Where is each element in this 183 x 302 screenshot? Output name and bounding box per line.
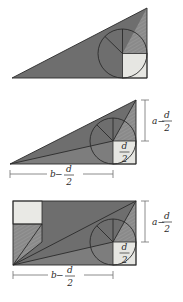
upper-left-square	[13, 201, 42, 224]
dim-bottom-denominator: 2	[65, 177, 72, 187]
dim-bottom-minus: −	[55, 169, 63, 179]
figure-top	[0, 0, 183, 92]
dimension-bottom: b − d 2	[13, 265, 113, 288]
square-denominator: 2	[121, 154, 128, 164]
square-denominator: 2	[121, 255, 128, 265]
dim-right-denominator: 2	[163, 123, 170, 133]
dimension-right: a − d 2	[141, 100, 172, 141]
dim-bottom-minus: −	[56, 270, 64, 280]
figure-middle-canvas: a − d 2 d 2 b − d 2	[0, 92, 183, 187]
dim-bottom-numerator: d	[67, 265, 73, 275]
figure-bottom: a − d 2 d 2 b − d 2	[0, 187, 183, 302]
square-numerator: d	[122, 141, 128, 151]
dim-right-numerator: d	[164, 211, 170, 221]
figure-top-canvas	[0, 0, 183, 92]
dim-right-numerator: d	[164, 110, 170, 120]
figure-bottom-canvas: a − d 2 d 2 b − d 2	[0, 187, 183, 302]
figure-middle: a − d 2 d 2 b − d 2	[0, 92, 183, 187]
dimension-right: a − d 2	[141, 201, 172, 242]
dim-right-denominator: 2	[163, 224, 170, 234]
figure-stack: a − d 2 d 2 b − d 2	[0, 0, 183, 302]
dimension-bottom: b − d 2	[10, 164, 113, 187]
dim-bottom-numerator: d	[66, 164, 72, 174]
square-numerator: d	[122, 242, 128, 252]
dim-bottom-denominator: 2	[66, 278, 73, 288]
